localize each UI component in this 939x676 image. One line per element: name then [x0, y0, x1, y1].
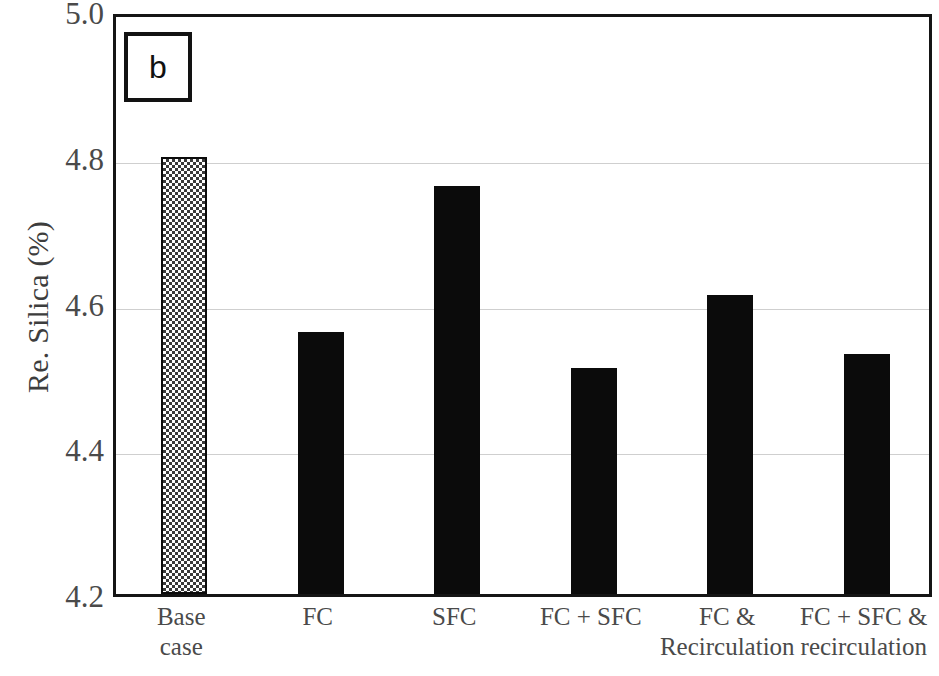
x-axis-tick-label: FC & Recirculation [651, 602, 804, 661]
bars-group [116, 17, 929, 594]
y-axis-tick-label: 5.0 [12, 0, 104, 29]
bar [571, 368, 617, 594]
x-axis-tick-label: FC + SFC [515, 602, 668, 632]
bar [161, 157, 207, 594]
y-axis-tick-label: 4.2 [12, 581, 104, 612]
x-axis-tick-label: SFC [378, 602, 531, 632]
y-axis-tick-label: 4.6 [12, 290, 104, 321]
y-axis-tick-label: 4.4 [12, 435, 104, 466]
x-axis-tick-labels: Base caseFCSFCFC + SFCFC & Recirculation… [113, 602, 932, 676]
panel-label-box: b [124, 32, 192, 102]
bar [707, 295, 753, 594]
x-axis-tick-label: Base case [105, 602, 258, 661]
x-axis-tick-label: FC [242, 602, 395, 632]
y-axis-tick-label: 4.8 [12, 144, 104, 175]
y-axis-tick-labels: 5.04.84.64.44.2 [0, 0, 104, 676]
bar [434, 186, 480, 594]
plot-area: b [113, 14, 932, 597]
x-axis-tick-label: FC + SFC & recirculation [788, 602, 939, 661]
bar-chart-figure: Re. Silica (%) 5.04.84.64.44.2 b Base ca… [0, 0, 939, 676]
bar [298, 332, 344, 594]
bar [844, 354, 890, 594]
